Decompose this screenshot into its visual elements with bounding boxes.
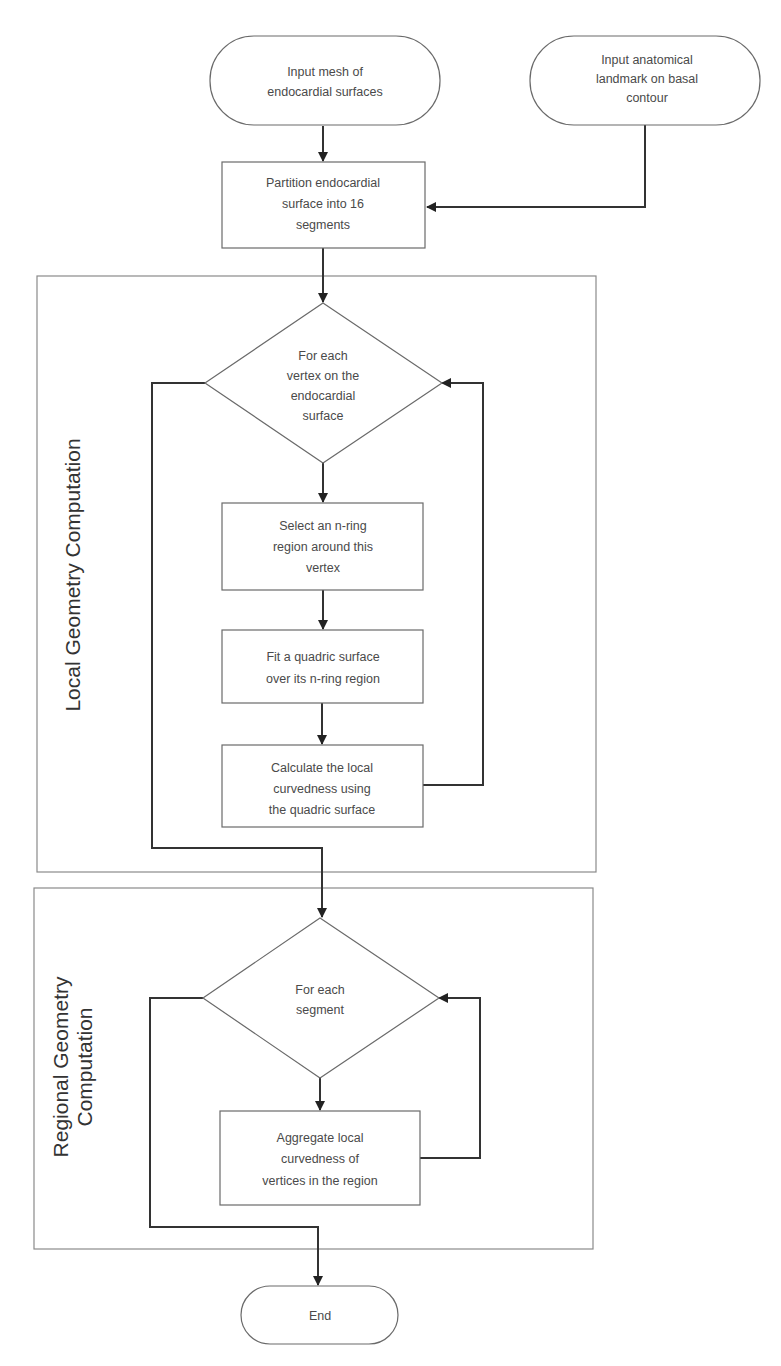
edge-calc-loop-back — [423, 383, 483, 785]
node-for-each-vertex-line1: For each — [298, 349, 347, 363]
node-select-ring-line1: Select an n-ring — [279, 519, 367, 533]
node-end-label: End — [309, 1309, 331, 1323]
node-select-ring-line2: region around this — [273, 540, 373, 554]
node-input-mesh-line2: endocardial surfaces — [267, 85, 382, 99]
node-calc-curvedness: Calculate the local curvedness using the… — [222, 745, 423, 827]
node-partition-line1: Partition endocardial — [266, 176, 380, 190]
frame-regional-label-line2: Computation — [73, 1007, 96, 1126]
edge-landmark-to-partition — [427, 125, 645, 207]
node-fit-quadric-line1: Fit a quadric surface — [266, 650, 379, 664]
node-input-landmark: Input anatomical landmark on basal conto… — [530, 36, 760, 125]
node-for-each-vertex: For each vertex on the endocardial surfa… — [205, 303, 442, 463]
edge-aggregate-loop-back — [420, 998, 480, 1158]
node-input-landmark-line2: landmark on basal — [596, 72, 698, 86]
frame-regional-label-line1: Regional Geometry — [49, 976, 72, 1157]
node-calc-curvedness-line1: Calculate the local — [271, 761, 373, 775]
node-select-ring-line3: vertex — [306, 561, 341, 575]
node-aggregate-line3: vertices in the region — [262, 1174, 377, 1188]
node-for-each-segment: For each segment — [203, 918, 439, 1078]
node-partition-line2: surface into 16 — [282, 197, 364, 211]
flowchart-canvas: Local Geometry Computation Regional Geom… — [0, 0, 781, 1366]
node-aggregate-line2: curvedness of — [281, 1152, 359, 1166]
node-end: End — [241, 1286, 398, 1344]
node-select-ring: Select an n-ring region around this vert… — [222, 503, 423, 590]
node-calc-curvedness-line3: the quadric surface — [269, 803, 375, 817]
node-fit-quadric: Fit a quadric surface over its n-ring re… — [222, 630, 423, 703]
node-input-landmark-line3: contour — [626, 91, 668, 105]
node-input-mesh-line1: Input mesh of — [287, 65, 363, 79]
node-partition: Partition endocardial surface into 16 se… — [222, 162, 425, 248]
node-for-each-vertex-line2: vertex on the — [287, 369, 359, 383]
node-input-landmark-line1: Input anatomical — [601, 53, 693, 67]
node-partition-line3: segments — [296, 218, 350, 232]
node-calc-curvedness-line2: curvedness using — [273, 782, 370, 796]
node-fit-quadric-line2: over its n-ring region — [266, 672, 380, 686]
node-for-each-vertex-line3: endocardial — [291, 389, 356, 403]
node-aggregate: Aggregate local curvedness of vertices i… — [220, 1111, 420, 1205]
node-for-each-segment-line1: For each — [295, 983, 344, 997]
node-aggregate-line1: Aggregate local — [277, 1131, 364, 1145]
frame-local-label: Local Geometry Computation — [61, 438, 84, 711]
node-for-each-segment-line2: segment — [296, 1003, 344, 1017]
node-for-each-vertex-line4: surface — [303, 409, 344, 423]
node-input-mesh: Input mesh of endocardial surfaces — [210, 36, 440, 125]
